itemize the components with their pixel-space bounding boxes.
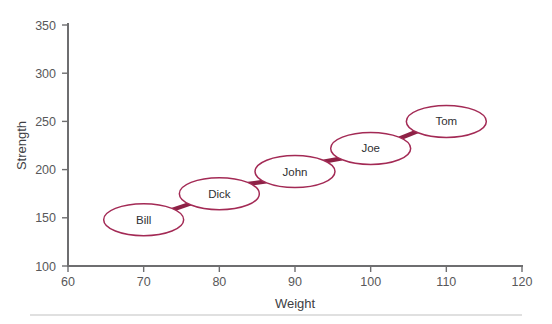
x-tick-label: 80 [212, 275, 226, 289]
x-axis-title: Weight [275, 296, 316, 311]
node-label: Joe [361, 142, 380, 154]
y-axis-ticks: 100150200250300350 [35, 19, 68, 274]
x-tick-label: 70 [137, 275, 151, 289]
data-point-node[interactable]: Tom [406, 105, 486, 137]
node-label: John [283, 166, 308, 178]
data-point-node[interactable]: Bill [104, 204, 184, 236]
y-tick-label: 100 [35, 260, 56, 274]
x-tick-label: 110 [436, 275, 456, 289]
data-point-node[interactable]: Joe [331, 132, 411, 164]
x-tick-label: 120 [512, 275, 533, 289]
axes: 100150200250300350 60708090100110120 [35, 19, 532, 290]
x-tick-label: 90 [288, 275, 302, 289]
data-point-node[interactable]: John [255, 156, 335, 188]
node-label: Tom [435, 115, 457, 127]
node-label: Dick [208, 188, 231, 200]
y-tick-label: 250 [35, 115, 56, 129]
y-tick-label: 300 [35, 67, 56, 81]
data-point-nodes: BillDickJohnJoeTom [104, 105, 487, 235]
x-tick-label: 60 [61, 275, 75, 289]
y-tick-label: 150 [35, 211, 56, 225]
y-tick-label: 200 [35, 163, 56, 177]
connector-segment [399, 131, 417, 138]
connector-segment [172, 204, 190, 210]
scatter-chart: BillDickJohnJoeTom 100150200250300350 60… [0, 0, 552, 324]
data-point-node[interactable]: Dick [179, 178, 259, 210]
x-axis-ticks: 60708090100110120 [61, 266, 532, 289]
y-axis-title: Strength [14, 121, 29, 170]
x-tick-label: 100 [360, 275, 381, 289]
chart-container: BillDickJohnJoeTom 100150200250300350 60… [0, 0, 552, 324]
y-tick-label: 350 [35, 19, 56, 33]
node-label: Bill [136, 214, 151, 226]
